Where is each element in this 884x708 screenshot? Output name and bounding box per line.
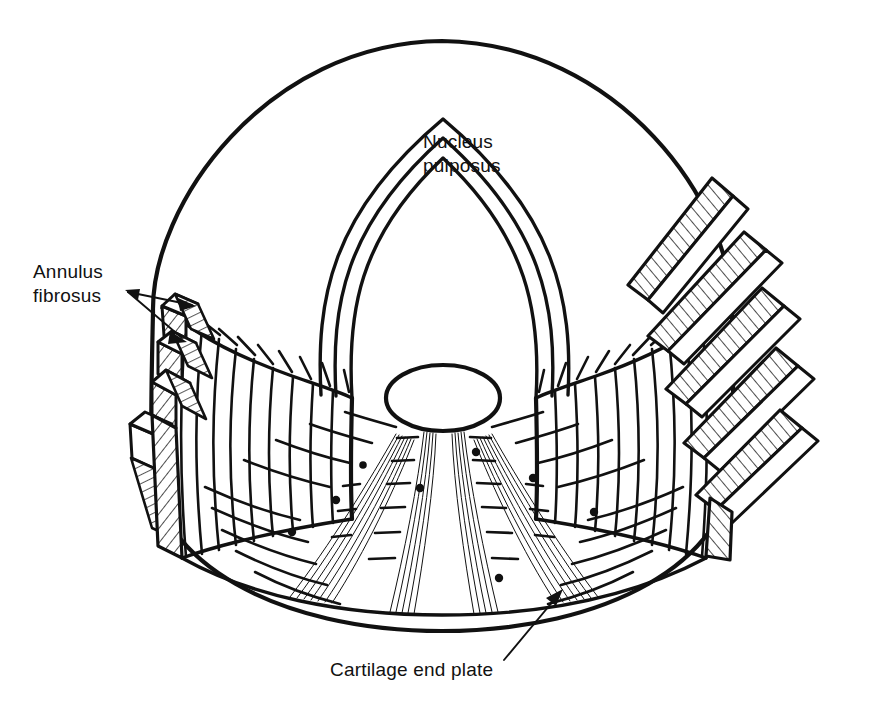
lamella-outer-wedge-left (152, 415, 182, 558)
nucleus-base-ellipse (386, 365, 500, 431)
nucleus-label-line1: Nucleus (423, 131, 493, 152)
figure-root: Nucleus pulposus Annulus fibrosus Cartil… (0, 0, 884, 708)
cut-face-right-inner-edge (536, 398, 537, 519)
intervertebral-disc-diagram: Nucleus pulposus Annulus fibrosus Cartil… (0, 0, 884, 708)
endplate-dot (416, 484, 424, 492)
endplate-dot (288, 528, 296, 536)
endplate-dot (529, 474, 537, 482)
endplate-label-line1: Cartilage end plate (330, 659, 493, 680)
cut-face-left-inner-edge (351, 398, 352, 519)
endplate-dot (495, 574, 503, 582)
endplate-dot (472, 448, 480, 456)
annulus-label-line2: fibrosus (33, 285, 101, 306)
annulus-label-line1: Annulus (33, 261, 103, 282)
endplate-dot (590, 508, 598, 516)
endplate-dot (359, 461, 367, 469)
nucleus-label-line2: pulposus (423, 155, 501, 176)
endplate-dot (332, 496, 340, 504)
